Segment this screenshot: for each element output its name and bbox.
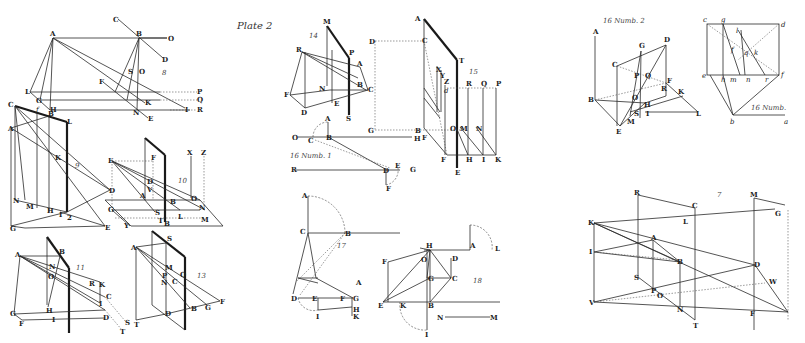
svg-text:7: 7 xyxy=(717,191,722,199)
svg-text:G: G xyxy=(775,209,781,218)
svg-text:F: F xyxy=(422,133,427,142)
svg-text:A: A xyxy=(356,59,363,68)
svg-text:A: A xyxy=(324,114,331,123)
svg-text:16 Numb.: 16 Numb. xyxy=(751,104,786,112)
svg-text:O: O xyxy=(48,272,54,281)
svg-text:A: A xyxy=(355,278,362,287)
svg-text:A: A xyxy=(414,14,421,23)
svg-text:Q: Q xyxy=(645,71,651,80)
svg-text:H: H xyxy=(644,100,651,109)
svg-text:C: C xyxy=(106,292,112,301)
svg-text:C: C xyxy=(308,136,314,145)
svg-text:M: M xyxy=(26,202,34,211)
svg-text:M: M xyxy=(323,17,331,26)
svg-text:f: f xyxy=(730,46,735,54)
svg-text:L: L xyxy=(696,109,701,118)
svg-text:T: T xyxy=(120,327,126,336)
svg-text:S: S xyxy=(634,273,639,282)
svg-text:f: f xyxy=(780,71,785,79)
svg-text:K: K xyxy=(55,153,62,162)
svg-text:F: F xyxy=(340,294,345,303)
svg-text:H: H xyxy=(46,306,53,315)
svg-text:8: 8 xyxy=(162,69,167,77)
svg-text:B: B xyxy=(48,109,54,118)
svg-text:N: N xyxy=(199,203,206,212)
svg-text:13: 13 xyxy=(197,272,206,280)
figure-7: R C M G K L A I B D S P O W V N T F 7 xyxy=(588,188,788,330)
svg-text:H: H xyxy=(426,241,433,250)
svg-text:L: L xyxy=(495,244,500,253)
figure-11: A B N O R K C I H G F I D S T 11 xyxy=(10,237,130,336)
svg-text:B: B xyxy=(164,219,170,228)
svg-text:c: c xyxy=(703,16,707,24)
svg-text:D: D xyxy=(754,260,760,269)
svg-text:M: M xyxy=(201,215,209,224)
svg-text:L: L xyxy=(178,212,183,221)
svg-text:R: R xyxy=(661,84,667,93)
svg-text:N: N xyxy=(49,262,56,271)
svg-text:R: R xyxy=(296,45,302,54)
plate-title: Plate 2 xyxy=(236,20,272,31)
svg-text:V: V xyxy=(588,298,595,307)
svg-text:K: K xyxy=(99,280,106,289)
svg-text:G: G xyxy=(353,294,359,303)
svg-text:A: A xyxy=(650,233,657,242)
svg-text:A: A xyxy=(139,191,146,200)
svg-text:b: b xyxy=(730,118,735,126)
svg-text:B: B xyxy=(59,247,65,256)
svg-text:O: O xyxy=(191,194,197,203)
svg-text:D: D xyxy=(291,294,297,303)
svg-text:L: L xyxy=(25,87,30,96)
svg-text:B: B xyxy=(345,229,351,238)
svg-text:h: h xyxy=(721,76,726,84)
svg-text:N: N xyxy=(161,278,168,287)
svg-text:E: E xyxy=(108,156,113,165)
figure-9: C A f B L K D N M H I 2 G E 9 xyxy=(7,100,115,233)
svg-text:G: G xyxy=(205,303,211,312)
svg-text:I: I xyxy=(185,105,188,114)
svg-text:10: 10 xyxy=(178,177,187,185)
svg-text:P: P xyxy=(634,71,640,80)
svg-text:C: C xyxy=(172,277,178,286)
svg-text:D: D xyxy=(664,35,670,44)
svg-text:B: B xyxy=(326,133,332,142)
svg-text:O: O xyxy=(292,133,298,142)
svg-text:E: E xyxy=(312,294,317,303)
svg-text:S: S xyxy=(128,67,133,76)
plate-drawing: Plate 2 A B C D O F L G H K N E P Q R xyxy=(0,0,805,343)
svg-text:T: T xyxy=(134,320,140,329)
svg-text:I: I xyxy=(589,247,592,256)
svg-text:A: A xyxy=(7,124,14,133)
svg-text:15: 15 xyxy=(469,68,478,76)
svg-text:B: B xyxy=(136,29,142,38)
svg-text:R: R xyxy=(291,165,297,174)
svg-text:G: G xyxy=(639,41,645,50)
svg-text:I: I xyxy=(646,109,649,118)
svg-text:A: A xyxy=(49,29,56,38)
svg-text:C: C xyxy=(422,36,428,45)
svg-text:N: N xyxy=(437,313,444,322)
svg-text:g: g xyxy=(721,16,726,24)
svg-text:F: F xyxy=(382,257,387,266)
engraving-plate: Plate 2 A B C D O F L G H K N E P Q R xyxy=(0,0,805,343)
svg-text:F: F xyxy=(99,77,104,86)
svg-text:16 Numb. 1: 16 Numb. 1 xyxy=(290,152,332,160)
svg-text:H: H xyxy=(414,134,421,143)
svg-text:I: I xyxy=(316,312,319,321)
svg-text:E: E xyxy=(455,168,460,177)
svg-text:Z: Z xyxy=(201,148,206,157)
svg-text:V: V xyxy=(146,185,153,194)
svg-text:9: 9 xyxy=(75,162,80,170)
svg-text:K: K xyxy=(353,312,360,321)
svg-text:M: M xyxy=(490,313,498,322)
svg-text:D: D xyxy=(162,55,168,64)
svg-text:11: 11 xyxy=(76,264,85,272)
svg-text:N: N xyxy=(677,305,684,314)
svg-text:F: F xyxy=(284,90,289,99)
svg-text:Q: Q xyxy=(197,95,203,104)
svg-text:H: H xyxy=(466,155,473,164)
svg-text:G: G xyxy=(368,126,374,135)
svg-text:H: H xyxy=(47,206,54,215)
svg-text:D: D xyxy=(103,313,109,322)
svg-text:R: R xyxy=(197,105,203,114)
